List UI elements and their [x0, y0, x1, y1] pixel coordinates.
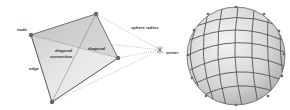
node-point [50, 100, 54, 104]
label-sphere-radius: sphere radius [131, 25, 159, 30]
label-node: node [17, 27, 28, 32]
node-point [29, 33, 33, 37]
label-diagonal-connection-1: diagonal [55, 48, 72, 53]
label-edge: edge [29, 66, 39, 71]
label-center: center [166, 50, 179, 55]
node-point [94, 12, 98, 16]
label-diagonal-connection-2: connection [50, 54, 73, 59]
node-point [116, 56, 120, 60]
sphere-mesh [187, 6, 286, 107]
diagram-canvas: node edge diagonal connection diagonal s… [0, 0, 290, 110]
label-diagonal: diagonal [88, 46, 105, 51]
quad-element: node edge diagonal connection diagonal s… [17, 12, 179, 104]
